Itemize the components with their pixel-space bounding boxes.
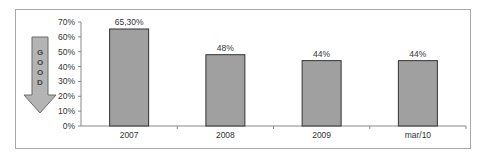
bar — [302, 61, 341, 126]
bar — [398, 61, 437, 126]
arrow-letter: O — [37, 68, 43, 77]
y-tick-label: 40% — [58, 62, 75, 72]
arrow-letter: G — [37, 48, 43, 57]
x-tick-label: 2009 — [312, 130, 331, 140]
y-tick-label: 20% — [58, 91, 75, 101]
bar — [110, 29, 149, 126]
x-tick-label: 2008 — [216, 130, 235, 140]
good-arrow-icon: G O O D — [24, 37, 56, 113]
data-label: 44% — [313, 49, 330, 59]
x-tick-label: 2007 — [120, 130, 139, 140]
y-axis: 0%10%20%30%40%50%60%70% — [58, 17, 81, 131]
x-axis: 200720082009mar/10 — [81, 126, 466, 140]
y-tick-label: 70% — [58, 17, 75, 27]
bar-chart: G O O D 0%10%20%30%40%50%60%70% 20072008… — [0, 0, 484, 157]
x-tick-label: mar/10 — [405, 130, 432, 140]
y-tick-label: 0% — [63, 121, 76, 131]
arrow-letter: O — [37, 58, 43, 67]
y-tick-label: 10% — [58, 106, 75, 116]
data-label: 44% — [409, 49, 426, 59]
arrow-letter: D — [37, 78, 43, 87]
bar — [206, 55, 245, 126]
bars: 65,30%48%44%44% — [110, 17, 438, 126]
y-tick-label: 30% — [58, 76, 75, 86]
y-tick-label: 60% — [58, 32, 75, 42]
y-tick-label: 50% — [58, 47, 75, 57]
data-label: 65,30% — [115, 17, 144, 27]
data-label: 48% — [217, 43, 234, 53]
